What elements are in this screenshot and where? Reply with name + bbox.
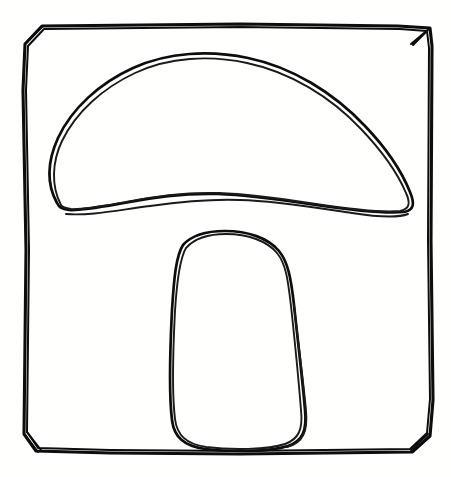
- mushroom-drawing: [0, 0, 451, 477]
- sketch-canvas: A simple black ink line drawing of a mus…: [0, 0, 451, 477]
- paper-background: [0, 0, 451, 477]
